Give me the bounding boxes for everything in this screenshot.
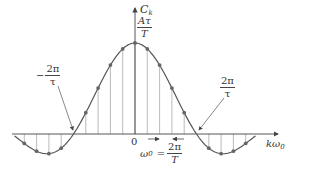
origin-label: 0 — [131, 137, 137, 147]
faint-caption — [95, 160, 245, 166]
coefficient-dot — [22, 142, 26, 146]
coefficient-dot — [170, 86, 174, 90]
x-axis-label: kω0 — [266, 139, 285, 151]
coefficient-dot — [133, 41, 137, 45]
coefficient-dot — [84, 111, 88, 115]
coefficient-dot — [121, 47, 125, 51]
coefficient-dot — [207, 146, 211, 150]
peak-label: Aτ T — [137, 16, 152, 39]
coefficient-dot — [182, 111, 186, 115]
coefficient-dot — [109, 63, 113, 67]
coefficient-dot — [244, 142, 248, 146]
right-zero-pointer — [199, 98, 224, 130]
left-zero-label: − 2π τ — [36, 64, 60, 87]
coefficient-dot — [232, 149, 236, 153]
coefficient-dot — [145, 47, 149, 51]
coefficient-dot — [59, 146, 63, 150]
coefficient-dot — [219, 152, 223, 156]
right-zero-label: 2π τ — [220, 76, 235, 99]
left-zero-pointer — [58, 86, 73, 130]
minus-sign: − — [36, 71, 44, 81]
coefficient-dot — [47, 152, 51, 156]
coefficient-dot — [35, 149, 39, 153]
coefficient-dot — [158, 63, 162, 67]
coefficient-dot — [96, 86, 100, 90]
